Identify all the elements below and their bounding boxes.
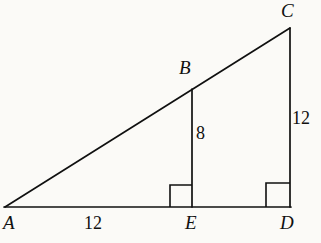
right-angle-marker-at-D bbox=[266, 183, 290, 207]
vertex-label-c: C bbox=[281, 1, 294, 20]
geometry-figure: A B C D E 12 8 12 bbox=[0, 0, 321, 243]
vertex-label-b: B bbox=[179, 58, 191, 77]
measurement-label-be: 8 bbox=[196, 124, 205, 142]
vertex-label-a: A bbox=[3, 213, 15, 232]
triangle-diagram-canvas bbox=[0, 0, 321, 243]
vertex-label-e: E bbox=[185, 213, 197, 232]
measurement-label-ae: 12 bbox=[84, 214, 102, 232]
right-angle-marker-at-E bbox=[170, 185, 192, 207]
segment-AC-hypotenuse bbox=[5, 28, 290, 207]
vertex-label-d: D bbox=[280, 213, 294, 232]
measurement-label-cd: 12 bbox=[292, 109, 310, 127]
